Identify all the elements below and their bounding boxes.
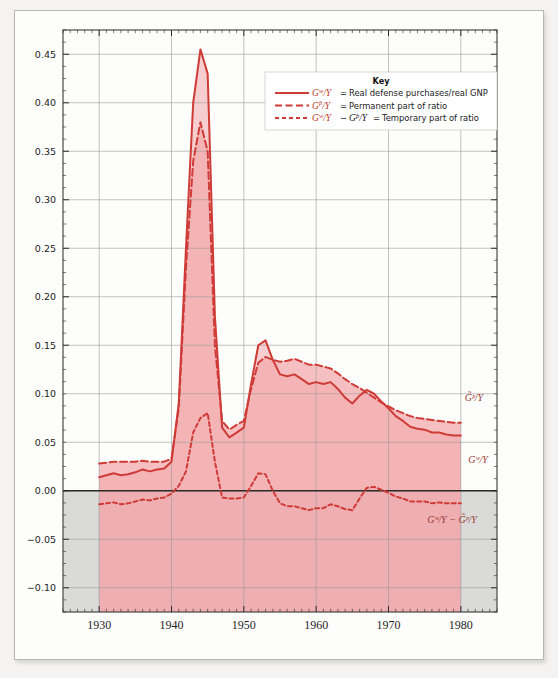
y-tick-label: 0.00 xyxy=(35,485,56,496)
y-tick-label: 0.25 xyxy=(35,243,56,254)
key-symbol-2: G̃p/Y xyxy=(349,112,369,124)
y-tick-label: −0.05 xyxy=(27,534,56,545)
figure-page: −0.10−0.050.000.050.100.150.200.250.300.… xyxy=(0,0,558,678)
area-fill-actual xyxy=(99,49,461,612)
temporary-curve-label: Gʷ/Y − G̃ᵖ/Y xyxy=(427,513,478,525)
x-tick-label: 1950 xyxy=(232,618,256,632)
y-tick-label: 0.35 xyxy=(35,146,56,157)
y-tick-label: 0.40 xyxy=(35,97,56,108)
key-entry-label: Temporary part of ratio xyxy=(381,113,479,123)
key-equals: = xyxy=(340,101,347,111)
key-symbol: Gw/Y xyxy=(312,112,333,124)
actual-curve-label: Gʷ/Y xyxy=(468,454,489,465)
key-title: Key xyxy=(372,76,390,86)
y-tick-label: 0.30 xyxy=(35,194,56,205)
chart-svg: −0.10−0.050.000.050.100.150.200.250.300.… xyxy=(0,0,558,678)
series-fill-band xyxy=(99,49,461,612)
chart-container: −0.10−0.050.000.050.100.150.200.250.300.… xyxy=(0,0,558,678)
x-tick-label: 1930 xyxy=(87,618,111,632)
y-axis-tick-labels: −0.10−0.050.000.050.100.150.200.250.300.… xyxy=(27,49,56,594)
x-tick-label: 1970 xyxy=(377,618,401,632)
x-axis-tick-labels: 193019401950196019701980 xyxy=(87,618,473,632)
key-symbol: G̃p/Y xyxy=(312,99,332,111)
y-tick-label: 0.45 xyxy=(35,49,56,60)
key-entry-label: Real defense purchases/real GNP xyxy=(349,88,488,98)
key-equals-2: = xyxy=(373,113,380,123)
key-entry-label: Permanent part of ratio xyxy=(349,101,447,111)
y-tick-label: −0.10 xyxy=(27,582,56,593)
key-equals: = xyxy=(340,88,347,98)
key-symbol: Gw/Y xyxy=(312,87,333,99)
chart-key-legend: KeyGw/Y=Real defense purchases/real GNPG… xyxy=(265,72,497,130)
x-tick-label: 1960 xyxy=(304,618,328,632)
key-equals: − xyxy=(340,113,347,123)
x-tick-label: 1940 xyxy=(160,618,184,632)
x-tick-label: 1980 xyxy=(449,618,473,632)
y-tick-label: 0.05 xyxy=(35,437,56,448)
y-tick-label: 0.10 xyxy=(35,388,56,399)
permanent-curve-label: G̃ᵖ/Y xyxy=(465,391,485,403)
y-tick-label: 0.20 xyxy=(35,291,56,302)
y-tick-label: 0.15 xyxy=(35,340,56,351)
